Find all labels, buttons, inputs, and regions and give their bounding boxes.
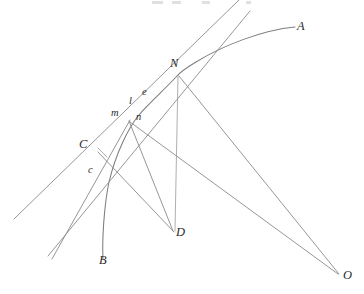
line-tangent-at-n — [48, 11, 250, 256]
label-point-o: O — [343, 269, 352, 282]
line-through-c-axis — [14, 0, 239, 219]
line-little-n-to-o — [130, 122, 338, 274]
line-n-to-d-vertical — [175, 76, 178, 231]
diagram-canvas — [0, 0, 364, 294]
label-point-c-lower: c — [88, 165, 93, 176]
label-point-b: B — [99, 254, 107, 267]
label-point-e: e — [142, 87, 147, 98]
label-point-n: N — [170, 57, 178, 70]
geometric-diagram: A N e l m n C c D B O — [0, 0, 364, 294]
label-point-d: D — [176, 226, 185, 239]
label-point-c-upper: C — [79, 138, 87, 151]
label-point-little-n: n — [136, 112, 141, 123]
line-little-n-to-lower-left — [52, 120, 130, 259]
label-point-m: m — [111, 108, 119, 119]
label-point-l: l — [129, 96, 132, 107]
tick-perpendicular-at-c — [98, 148, 107, 157]
label-point-a: A — [297, 20, 305, 33]
line-c-region-to-d — [98, 152, 174, 232]
curve-anb — [103, 27, 295, 259]
